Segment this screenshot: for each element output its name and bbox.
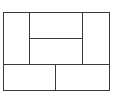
outer-bottom-edge xyxy=(3,90,110,91)
outer-top-edge xyxy=(3,12,110,13)
bottom-divider xyxy=(55,64,56,91)
row-divider xyxy=(3,64,110,65)
outer-left-edge xyxy=(3,12,4,91)
layout-diagram xyxy=(0,0,115,102)
outer-right-edge xyxy=(109,12,110,91)
center-divider xyxy=(29,38,83,39)
